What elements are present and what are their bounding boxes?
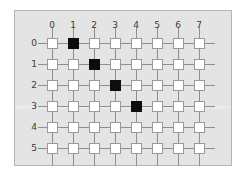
- row-label: 5: [28, 144, 40, 153]
- grid-cell-empty[interactable]: [173, 80, 184, 91]
- grid-cell-empty[interactable]: [131, 38, 142, 49]
- grid-cell-empty[interactable]: [194, 143, 205, 154]
- grid-cell-empty[interactable]: [110, 59, 121, 70]
- grid-cell-empty[interactable]: [110, 122, 121, 133]
- grid-cell-empty[interactable]: [173, 143, 184, 154]
- grid-cell-empty[interactable]: [152, 80, 163, 91]
- grid-cell-empty[interactable]: [173, 122, 184, 133]
- grid-cell-empty[interactable]: [47, 59, 58, 70]
- row-label: 1: [28, 60, 40, 69]
- grid-cell-empty[interactable]: [89, 38, 100, 49]
- grid-cell-filled[interactable]: [110, 80, 121, 91]
- grid-cell-empty[interactable]: [152, 101, 163, 112]
- grid-cell-empty[interactable]: [89, 80, 100, 91]
- grid-cell-empty[interactable]: [131, 80, 142, 91]
- column-label: 5: [151, 21, 163, 30]
- grid-cell-empty[interactable]: [194, 80, 205, 91]
- gridline-horizontal: [38, 85, 215, 86]
- grid-cell-empty[interactable]: [152, 122, 163, 133]
- grid-cell-empty[interactable]: [194, 38, 205, 49]
- column-label: 2: [88, 21, 100, 30]
- grid-cell-empty[interactable]: [47, 38, 58, 49]
- grid-cell-empty[interactable]: [152, 38, 163, 49]
- grid-cell-empty[interactable]: [47, 80, 58, 91]
- grid-cell-empty[interactable]: [152, 143, 163, 154]
- gridline-horizontal: [38, 64, 215, 65]
- grid-cell-filled[interactable]: [131, 101, 142, 112]
- grid-cell-empty[interactable]: [173, 59, 184, 70]
- row-label: 3: [28, 102, 40, 111]
- column-label: 7: [193, 21, 205, 30]
- grid-cell-empty[interactable]: [47, 143, 58, 154]
- grid-cell-empty[interactable]: [47, 101, 58, 112]
- grid-cell-empty[interactable]: [194, 122, 205, 133]
- column-label: 6: [172, 21, 184, 30]
- grid-cell-empty[interactable]: [89, 143, 100, 154]
- grid-cell-empty[interactable]: [194, 59, 205, 70]
- grid-cell-empty[interactable]: [68, 80, 79, 91]
- column-label: 1: [67, 21, 79, 30]
- grid-cell-empty[interactable]: [89, 101, 100, 112]
- grid-cell-empty[interactable]: [152, 59, 163, 70]
- grid-cell-empty[interactable]: [89, 122, 100, 133]
- grid-diagram-canvas: 01234567012345: [0, 0, 244, 178]
- grid-cell-empty[interactable]: [173, 101, 184, 112]
- grid-cell-empty[interactable]: [68, 59, 79, 70]
- gridline-horizontal: [38, 43, 215, 44]
- row-label: 4: [28, 123, 40, 132]
- grid-cell-empty[interactable]: [110, 38, 121, 49]
- column-label: 0: [46, 21, 58, 30]
- grid-cell-empty[interactable]: [110, 101, 121, 112]
- row-label: 0: [28, 39, 40, 48]
- gridline-horizontal: [38, 127, 215, 128]
- grid-cell-empty[interactable]: [131, 143, 142, 154]
- gridline-horizontal: [38, 148, 215, 149]
- grid-cell-empty[interactable]: [131, 59, 142, 70]
- grid-cell-empty[interactable]: [110, 143, 121, 154]
- grid-cell-empty[interactable]: [173, 38, 184, 49]
- grid-cell-empty[interactable]: [131, 122, 142, 133]
- grid-cell-empty[interactable]: [47, 122, 58, 133]
- grid-cell-filled[interactable]: [68, 38, 79, 49]
- column-label: 4: [130, 21, 142, 30]
- column-label: 3: [109, 21, 121, 30]
- grid-cell-empty[interactable]: [68, 143, 79, 154]
- row-label: 2: [28, 81, 40, 90]
- gridline-horizontal: [38, 106, 215, 107]
- grid-cell-empty[interactable]: [68, 122, 79, 133]
- grid-cell-filled[interactable]: [89, 59, 100, 70]
- grid-cell-empty[interactable]: [194, 101, 205, 112]
- grid-cell-empty[interactable]: [68, 101, 79, 112]
